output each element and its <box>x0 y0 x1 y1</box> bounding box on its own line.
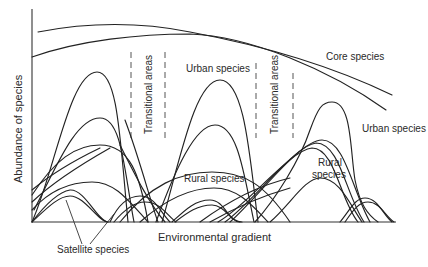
satellite-species-label: Satellite species <box>57 244 129 255</box>
middle-urban-peak-tall <box>162 80 258 222</box>
urban-species-label-right: Urban species <box>362 123 426 134</box>
core-species-label: Core species <box>326 51 384 62</box>
species-abundance-diagram: Abundance of species Environmental gradi… <box>0 0 428 267</box>
rural-species-label-right-line2: species <box>312 169 346 180</box>
left-rural-curve-2 <box>32 190 108 222</box>
transitional-areas-label-2: Transitional areas <box>269 55 280 134</box>
x-axis-label: Environmental gradient <box>158 231 271 243</box>
rural-species-label-right-line1: Rural <box>318 157 342 168</box>
urban-species-label-top: Urban species <box>186 63 250 74</box>
transitional-areas-label-1: Transitional areas <box>143 55 154 134</box>
y-axis-label: Abundance of species <box>12 74 24 183</box>
left-rising-line-1 <box>32 148 110 202</box>
rural-species-label-middle: Rural species <box>184 173 245 184</box>
right-rural-low <box>270 178 362 222</box>
left-rising-line-2 <box>32 148 100 190</box>
diagram-canvas: Abundance of species Environmental gradi… <box>0 0 428 267</box>
